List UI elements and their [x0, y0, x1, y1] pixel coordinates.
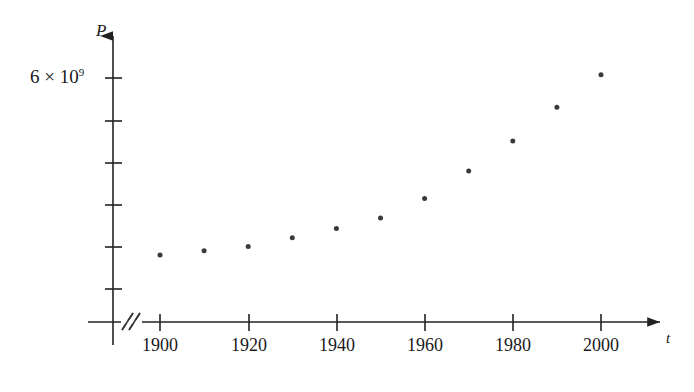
- population-scatter-figure: P t 6 × 109 1900 1920 1940 1960 1980 200…: [0, 0, 694, 392]
- data-points: [158, 72, 604, 257]
- y-axis: [105, 36, 122, 345]
- data-point: [466, 169, 471, 174]
- data-point: [290, 235, 295, 240]
- data-point: [202, 248, 207, 253]
- data-point: [422, 196, 427, 201]
- y-tick-label-exponent: 9: [79, 66, 85, 78]
- data-point: [158, 252, 163, 257]
- plot-canvas: [0, 0, 694, 392]
- data-point: [334, 226, 339, 231]
- x-tick-label-1920: 1920: [231, 336, 267, 354]
- x-tick-label-1940: 1940: [319, 336, 355, 354]
- x-tick-label-2000: 2000: [583, 336, 619, 354]
- axis-break-icon: [121, 313, 142, 330]
- x-tick-label-1900: 1900: [142, 336, 178, 354]
- x-axis-label: t: [666, 331, 670, 346]
- x-tick-label-1980: 1980: [495, 336, 531, 354]
- data-point: [510, 139, 515, 144]
- data-point: [246, 244, 251, 249]
- data-point: [599, 72, 604, 77]
- y-axis-label: P: [96, 22, 106, 39]
- data-point: [554, 105, 559, 110]
- data-point: [378, 215, 383, 220]
- x-tick-label-1960: 1960: [407, 336, 443, 354]
- x-axis: [88, 314, 660, 331]
- y-tick-label-6e9: 6 × 109: [30, 67, 84, 86]
- y-tick-label-mantissa: 6 × 10: [30, 66, 79, 87]
